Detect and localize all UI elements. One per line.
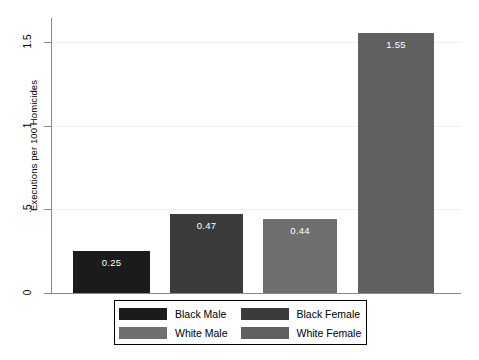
y-tick-mark-1.5 xyxy=(44,42,51,43)
y-tick-mark-1 xyxy=(44,126,51,127)
plot-area: 0.25 0.47 0.44 1.55 xyxy=(51,18,461,293)
legend-swatch-black-female xyxy=(241,308,289,320)
bar-value-black-male: 0.25 xyxy=(73,257,150,268)
bar-value-black-female: 0.47 xyxy=(170,220,243,231)
bar-black-female[interactable]: 0.47 xyxy=(170,214,243,293)
legend-row-2: White Male White Female xyxy=(119,323,362,342)
bar-white-male[interactable]: 0.44 xyxy=(263,219,337,293)
legend-item-white-female[interactable]: White Female xyxy=(241,327,363,339)
legend-label-black-female: Black Female xyxy=(297,308,361,320)
legend-item-black-male[interactable]: Black Male xyxy=(119,308,241,320)
legend-swatch-black-male xyxy=(119,308,167,320)
bar-black-male[interactable]: 0.25 xyxy=(73,251,150,293)
y-tick-label-1: 1 xyxy=(22,113,33,139)
y-tick-mark-0.5 xyxy=(44,209,51,210)
legend-label-black-male: Black Male xyxy=(175,308,226,320)
bar-value-white-female: 1.55 xyxy=(358,39,434,50)
y-tick-label-1.5: 1.5 xyxy=(22,29,33,55)
legend-swatch-white-female xyxy=(241,327,289,339)
legend-label-white-male: White Male xyxy=(175,327,228,339)
y-tick-mark-0 xyxy=(44,293,51,294)
legend-row-1: Black Male Black Female xyxy=(119,304,362,323)
x-axis-line xyxy=(51,293,461,294)
chart-legend: Black Male Black Female White Male White… xyxy=(114,300,367,345)
y-tick-label-0: 0 xyxy=(22,280,33,306)
bar-value-white-male: 0.44 xyxy=(263,225,337,236)
legend-item-black-female[interactable]: Black Female xyxy=(241,308,363,320)
bar-white-female[interactable]: 1.55 xyxy=(358,33,434,293)
legend-swatch-white-male xyxy=(119,327,167,339)
y-tick-label-0.5: .5 xyxy=(22,196,33,222)
bar-chart-figure: Executions per 100 Homicides 1.5 1 .5 0 … xyxy=(0,0,479,360)
legend-item-white-male[interactable]: White Male xyxy=(119,327,241,339)
legend-label-white-female: White Female xyxy=(297,327,362,339)
